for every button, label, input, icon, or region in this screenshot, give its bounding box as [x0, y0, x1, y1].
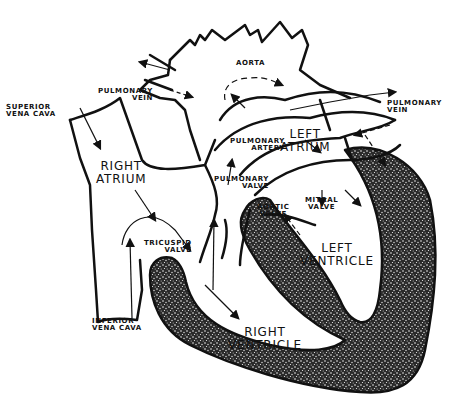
- heart-illustration: [0, 0, 456, 419]
- label-right-atrium: RIGHT ATRIUM: [96, 160, 146, 185]
- label-inferior-vena-cava: INFERIOR VENA CAVA: [92, 318, 142, 333]
- label-left-ventricle: LEFT VENTRICLE: [300, 242, 374, 267]
- label-aorta: AORTA: [236, 60, 265, 67]
- label-pulmonary-artery: PULMONARY ARTERY: [230, 138, 285, 153]
- label-left-atrium: LEFT ATRIUM: [280, 128, 330, 153]
- label-pulmonary-valve: PULMONARY VALVE: [214, 176, 269, 191]
- label-pulmonary-vein-right: PULMONARY VEIN: [387, 100, 442, 115]
- label-tricuspid-valve: TRICUSPID VALVE: [144, 240, 192, 255]
- label-mitral-valve: MITRAL VALVE: [305, 197, 338, 212]
- label-aortic-valve: AORTIC VALVE: [257, 204, 290, 219]
- right-atrium-wall: [70, 98, 215, 169]
- myocardium: [150, 148, 435, 393]
- heart-diagram: SUPERIOR VENA CAVA PULMONARY VEIN AORTA …: [0, 0, 456, 419]
- label-pulmonary-vein-left: PULMONARY VEIN: [98, 88, 153, 103]
- label-superior-vena-cava: SUPERIOR VENA CAVA: [6, 104, 56, 119]
- label-right-ventricle: RIGHT VENTRICLE: [228, 326, 302, 351]
